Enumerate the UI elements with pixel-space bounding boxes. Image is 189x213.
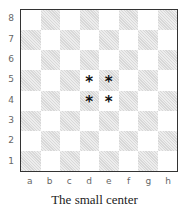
square-e4: * <box>99 91 119 111</box>
square-a1 <box>21 151 41 171</box>
square-b1 <box>41 151 61 171</box>
rank-label-6: 6 <box>6 54 16 64</box>
file-label-e: e <box>99 176 119 186</box>
rank-label-8: 8 <box>6 13 16 23</box>
square-b6 <box>41 50 61 70</box>
square-h4 <box>158 91 178 111</box>
square-f5 <box>119 70 139 90</box>
square-d4: * <box>80 91 100 111</box>
square-c8 <box>60 10 80 30</box>
square-e5: * <box>99 70 119 90</box>
square-f1 <box>119 151 139 171</box>
chessboard: **** <box>20 9 178 172</box>
square-b7 <box>41 30 61 50</box>
file-label-c: c <box>60 176 80 186</box>
square-a8 <box>21 10 41 30</box>
square-d5: * <box>80 70 100 90</box>
square-e6 <box>99 50 119 70</box>
rank-label-3: 3 <box>6 115 16 125</box>
square-e8 <box>99 10 119 30</box>
rank-label-5: 5 <box>6 74 16 84</box>
square-a4 <box>21 91 41 111</box>
square-a5 <box>21 70 41 90</box>
square-g8 <box>138 10 158 30</box>
square-d3 <box>80 111 100 131</box>
square-c7 <box>60 30 80 50</box>
square-g5 <box>138 70 158 90</box>
square-a6 <box>21 50 41 70</box>
file-label-h: h <box>158 176 178 186</box>
square-b2 <box>41 131 61 151</box>
square-c4 <box>60 91 80 111</box>
square-f2 <box>119 131 139 151</box>
asterisk-mark-icon: * <box>85 95 93 110</box>
square-h6 <box>158 50 178 70</box>
square-f6 <box>119 50 139 70</box>
square-g3 <box>138 111 158 131</box>
rank-label-1: 1 <box>6 156 16 166</box>
square-f7 <box>119 30 139 50</box>
square-a3 <box>21 111 41 131</box>
file-label-a: a <box>20 176 40 186</box>
square-e1 <box>99 151 119 171</box>
square-c3 <box>60 111 80 131</box>
square-f8 <box>119 10 139 30</box>
square-h7 <box>158 30 178 50</box>
square-g6 <box>138 50 158 70</box>
square-e3 <box>99 111 119 131</box>
square-b8 <box>41 10 61 30</box>
square-h8 <box>158 10 178 30</box>
asterisk-mark-icon: * <box>105 75 113 90</box>
square-e2 <box>99 131 119 151</box>
rank-label-2: 2 <box>6 135 16 145</box>
caption: The small center <box>0 192 189 208</box>
square-b4 <box>41 91 61 111</box>
file-label-g: g <box>139 176 159 186</box>
asterisk-mark-icon: * <box>105 95 113 110</box>
square-b3 <box>41 111 61 131</box>
square-h1 <box>158 151 178 171</box>
square-g4 <box>138 91 158 111</box>
square-c6 <box>60 50 80 70</box>
square-b5 <box>41 70 61 90</box>
square-f3 <box>119 111 139 131</box>
square-g1 <box>138 151 158 171</box>
square-d2 <box>80 131 100 151</box>
square-d1 <box>80 151 100 171</box>
square-c2 <box>60 131 80 151</box>
rank-label-4: 4 <box>6 95 16 105</box>
square-c5 <box>60 70 80 90</box>
square-a7 <box>21 30 41 50</box>
square-h3 <box>158 111 178 131</box>
file-label-f: f <box>119 176 139 186</box>
square-h5 <box>158 70 178 90</box>
square-f4 <box>119 91 139 111</box>
square-g7 <box>138 30 158 50</box>
square-e7 <box>99 30 119 50</box>
square-d7 <box>80 30 100 50</box>
square-g2 <box>138 131 158 151</box>
square-c1 <box>60 151 80 171</box>
square-h2 <box>158 131 178 151</box>
square-d8 <box>80 10 100 30</box>
rank-label-7: 7 <box>6 34 16 44</box>
square-d6 <box>80 50 100 70</box>
file-label-b: b <box>40 176 60 186</box>
square-a2 <box>21 131 41 151</box>
file-label-d: d <box>79 176 99 186</box>
asterisk-mark-icon: * <box>85 75 93 90</box>
